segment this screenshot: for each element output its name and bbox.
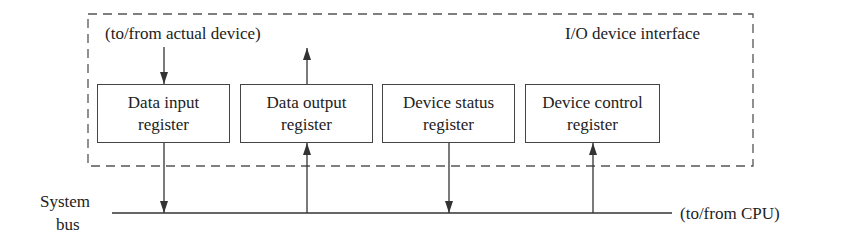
cpu-label: (to/from CPU): [680, 204, 780, 224]
register-label-line2: register: [567, 114, 618, 136]
register-label-line2: register: [423, 114, 474, 136]
system-bus-label-line2: bus: [56, 215, 80, 235]
device-status-register: Device status register: [382, 84, 515, 143]
interface-label: I/O device interface: [565, 24, 700, 44]
register-label-line1: Data input: [128, 92, 199, 114]
register-label-line2: register: [138, 114, 189, 136]
data-output-register: Data output register: [240, 84, 373, 143]
register-label-line1: Device status: [403, 92, 494, 114]
device-control-register: Device control register: [525, 84, 660, 143]
system-bus-label-line1: System: [40, 192, 90, 212]
register-label-line2: register: [281, 114, 332, 136]
device-label: (to/from actual device): [105, 24, 261, 44]
data-input-register: Data input register: [97, 84, 230, 143]
register-label-line1: Data output: [267, 92, 347, 114]
register-label-line1: Device control: [542, 92, 643, 114]
